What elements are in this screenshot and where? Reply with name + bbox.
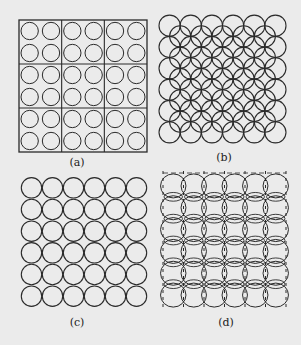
panel-d xyxy=(0,0,301,345)
lens-lattice-diagram xyxy=(0,0,301,345)
caption-d: (d) xyxy=(218,316,234,329)
